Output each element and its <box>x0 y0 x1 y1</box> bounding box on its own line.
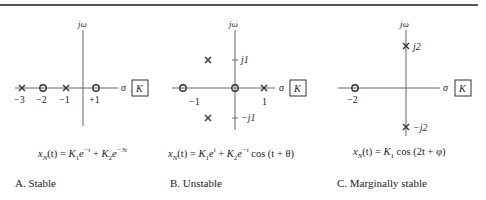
gain-label: K <box>135 83 144 94</box>
tick-label: −2 <box>36 94 47 105</box>
formula-b: xN(t) = K1et + K2e−t cos (t + θ) <box>168 146 294 162</box>
formula-plus: + <box>216 148 227 159</box>
caption-c: C. Marginally stable <box>337 177 427 189</box>
real-axis-label: σ <box>443 82 449 93</box>
panel-b-plot: jω σ K j1 −j1 −1 1 <box>172 19 306 130</box>
formula-coef: K <box>227 148 234 159</box>
formula-arg: (t) = <box>362 146 383 157</box>
formula-plus: + <box>90 148 101 159</box>
tick-label: 1 <box>262 96 267 107</box>
gain-label: K <box>458 83 467 94</box>
tick-label: −2 <box>347 94 358 105</box>
tick-label: −1 <box>59 94 70 105</box>
tick-label: j2 <box>411 41 421 52</box>
formula-a: xN(t) = K1e−t + K2e−3t <box>38 146 127 162</box>
tick-label: −j1 <box>241 112 256 123</box>
imag-axis-label: jω <box>77 19 87 29</box>
pole-zero-diagrams: jω σ K −3 −2 −1 +1 jω σ K j1 −j1 −1 1 <box>0 0 486 200</box>
caption-a: A. Stable <box>15 177 56 189</box>
tick-label: +1 <box>89 94 100 105</box>
formula-exponent: −3t <box>117 146 127 154</box>
tick-label: −1 <box>189 96 200 107</box>
panel-c-plot: jω σ K j2 −j2 −2 <box>338 19 471 136</box>
real-axis-label: σ <box>121 82 127 93</box>
panel-a-plot: jω σ K −3 −2 −1 +1 <box>14 19 148 126</box>
formula-c: xN(t) = K1 cos (2t + φ) <box>353 146 446 160</box>
pole-marker <box>205 115 211 121</box>
tick-label: j1 <box>239 54 249 65</box>
imag-axis-label: jω <box>399 19 409 29</box>
formula-exponent: −t <box>242 146 249 154</box>
formula-arg: (t) = <box>177 148 198 159</box>
formula-arg: (t) = <box>47 148 68 159</box>
tick-label: −3 <box>14 94 25 105</box>
imag-axis-label: jω <box>228 19 238 29</box>
tick-label: −j2 <box>413 122 428 133</box>
gain-label: K <box>293 83 302 94</box>
caption-b: B. Unstable <box>170 177 222 189</box>
formula-tail: cos (2t + φ) <box>394 146 446 157</box>
formula-tail: cos (t + θ) <box>249 148 294 159</box>
real-axis-label: σ <box>279 82 285 93</box>
pole-marker <box>205 57 211 63</box>
